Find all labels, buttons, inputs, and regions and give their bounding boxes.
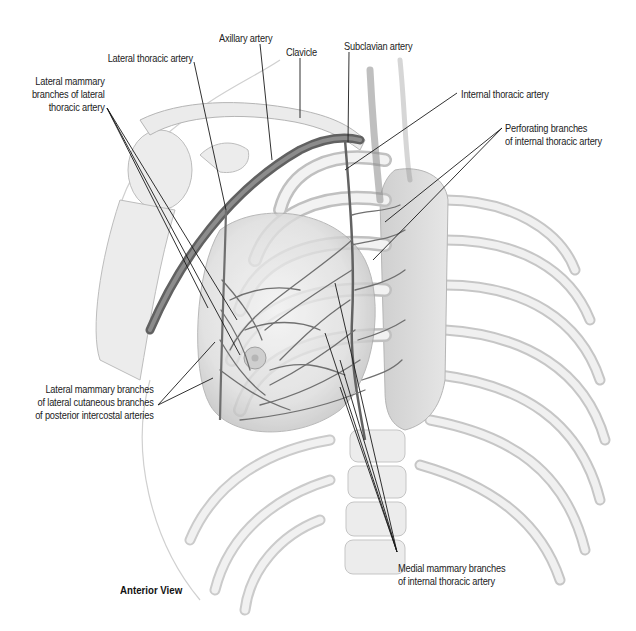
- label-axillary-artery: Axillary artery: [219, 32, 272, 45]
- label-line: of posterior intercostal arteries: [36, 409, 154, 422]
- label-lateral-mammary-branches-lateral-thoracic: Lateral mammary branches of lateral thor…: [32, 75, 105, 114]
- label-line: of internal thoracic artery: [505, 135, 602, 148]
- label-subclavian-artery: Subclavian artery: [344, 40, 412, 53]
- label-internal-thoracic-artery: Internal thoracic artery: [461, 88, 549, 101]
- label-line: of internal thoracic artery: [398, 575, 505, 588]
- label-line: Internal thoracic artery: [461, 88, 549, 101]
- label-line: Lateral mammary: [32, 75, 105, 88]
- nipple: [252, 355, 259, 362]
- label-lateral-mammary-branches-intercostal: Lateral mammary branches of lateral cuta…: [36, 383, 154, 422]
- view-caption: Anterior View: [120, 584, 182, 596]
- label-lateral-thoracic-artery: Lateral thoracic artery: [108, 52, 193, 65]
- label-medial-mammary-branches: Medial mammary branches of internal thor…: [398, 562, 505, 588]
- label-line: Medial mammary branches: [398, 562, 505, 575]
- label-line: Clavicle: [286, 46, 317, 59]
- label-line: Axillary artery: [219, 32, 272, 45]
- label-line: of lateral cutaneous branches: [36, 396, 154, 409]
- anatomy-figure: Lateral thoracic artery Axillary artery …: [0, 0, 636, 631]
- label-line: thoracic artery: [32, 101, 105, 114]
- label-line: Lateral thoracic artery: [108, 52, 193, 65]
- spine: [345, 430, 406, 574]
- label-line: branches of lateral: [32, 88, 105, 101]
- label-clavicle: Clavicle: [286, 46, 317, 59]
- label-line: Lateral mammary branches: [36, 383, 154, 396]
- label-perforating-branches: Perforating branches of internal thoraci…: [505, 122, 602, 148]
- label-line: Perforating branches: [505, 122, 602, 135]
- label-line: Subclavian artery: [344, 40, 412, 53]
